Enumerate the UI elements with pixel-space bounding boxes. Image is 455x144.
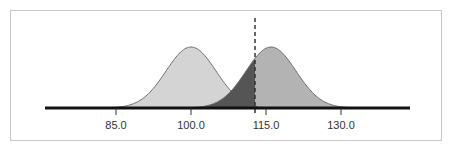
x-tick-label: 130.0 — [327, 119, 355, 131]
x-tick-label: 100.0 — [177, 119, 205, 131]
distribution-plot: 85.0100.0115.0130.0 — [0, 0, 455, 144]
x-tick-label: 85.0 — [105, 119, 126, 131]
x-tick-label: 115.0 — [253, 119, 280, 131]
